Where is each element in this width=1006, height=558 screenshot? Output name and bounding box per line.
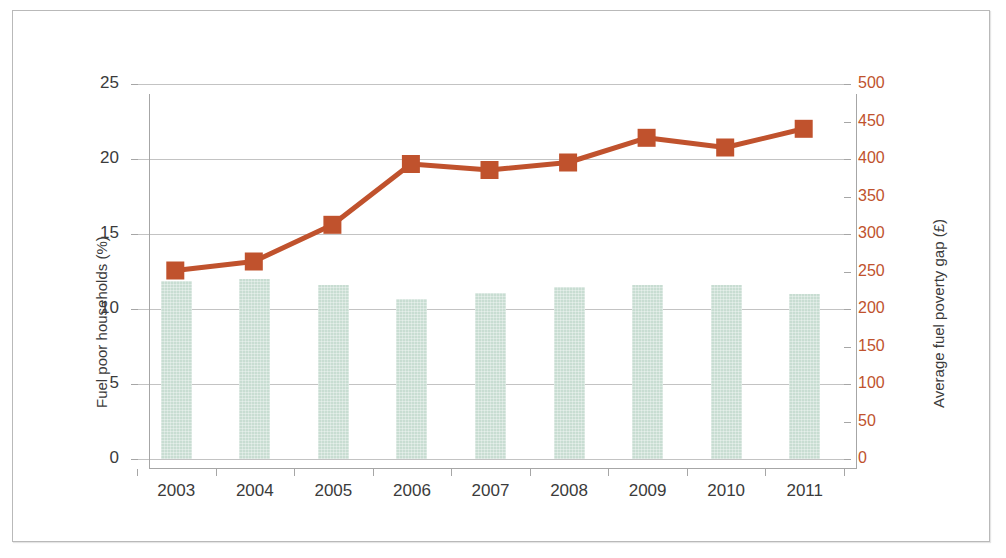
left-axis-tick [131, 84, 138, 85]
chart-frame: 0510152025 05010015020025030035040045050… [12, 10, 990, 542]
right-axis-tick [844, 347, 851, 348]
bar [396, 299, 427, 460]
right-axis-tick [844, 122, 851, 123]
right-axis-tick [844, 272, 851, 273]
gridline [137, 84, 844, 85]
right-axis-tick [844, 384, 851, 385]
right-axis-tick [844, 84, 851, 85]
left-axis-tick-label: 25 [79, 73, 119, 93]
x-axis-tick-label: 2004 [215, 481, 295, 501]
x-axis-tick-label: 2011 [765, 481, 845, 501]
x-axis-tick-label: 2009 [608, 481, 688, 501]
bar [632, 285, 663, 459]
right-axis-title: Average fuel poverty gap (£) [930, 219, 947, 408]
line-marker [716, 139, 734, 157]
x-axis-tick-label: 2008 [529, 481, 609, 501]
right-axis-tick-label: 400 [858, 149, 885, 167]
right-axis-tick-label: 0 [858, 449, 867, 467]
right-axis-tick-label: 500 [858, 74, 885, 92]
right-axis-tick-label: 200 [858, 299, 885, 317]
line-marker [323, 216, 341, 234]
left-axis-tick [131, 459, 138, 460]
x-axis-tick [530, 469, 531, 476]
x-axis-tick-label: 2010 [686, 481, 766, 501]
right-axis-tick-label: 250 [858, 262, 885, 280]
x-axis-tick [294, 469, 295, 476]
right-axis-tick [844, 459, 851, 460]
right-axis-tick-label: 50 [858, 412, 876, 430]
line-marker [402, 155, 420, 173]
x-axis-tick-label: 2003 [136, 481, 216, 501]
x-axis-tick [216, 469, 217, 476]
x-axis-tick [608, 469, 609, 476]
bar [789, 294, 820, 459]
bar [711, 285, 742, 459]
right-axis-tick [844, 197, 851, 198]
bar [475, 293, 506, 460]
left-axis-tick-label: 0 [79, 448, 119, 468]
right-axis-tick-label: 100 [858, 374, 885, 392]
line-marker [638, 129, 656, 147]
x-axis-tick [765, 469, 766, 476]
line-marker [559, 154, 577, 172]
line-marker [166, 262, 184, 280]
left-axis-tick [131, 309, 138, 310]
x-axis-tick [373, 469, 374, 476]
chart-page: 0510152025 05010015020025030035040045050… [0, 0, 1006, 558]
bar [318, 285, 349, 459]
x-axis-line [149, 468, 857, 469]
right-axis-tick-label: 300 [858, 224, 885, 242]
right-axis-tick [844, 234, 851, 235]
bar [239, 279, 270, 459]
gridline [137, 459, 844, 460]
bar [554, 287, 585, 460]
right-axis-line [856, 94, 857, 469]
x-axis-tick [137, 469, 138, 476]
gridline [137, 159, 844, 160]
line-markers [166, 120, 812, 280]
x-axis-tick [844, 469, 845, 476]
right-axis-tick [844, 422, 851, 423]
right-axis-tick-label: 450 [858, 112, 885, 130]
x-axis-tick-label: 2005 [293, 481, 373, 501]
x-axis-tick [687, 469, 688, 476]
line-marker [795, 120, 813, 138]
x-axis-tick-label: 2006 [372, 481, 452, 501]
line-marker [245, 253, 263, 271]
left-axis-tick [131, 159, 138, 160]
right-axis-tick [844, 309, 851, 310]
x-axis-tick [451, 469, 452, 476]
x-axis-tick-label: 2007 [451, 481, 531, 501]
gridline [137, 234, 844, 235]
line-marker [481, 161, 499, 179]
right-axis-tick [844, 159, 851, 160]
left-axis-tick [131, 234, 138, 235]
left-axis-title: Fuel poor households (%) [93, 236, 110, 408]
line-path [175, 129, 803, 271]
right-axis-tick-label: 350 [858, 187, 885, 205]
right-axis-tick-label: 150 [858, 337, 885, 355]
left-axis-tick-label: 20 [79, 148, 119, 168]
left-axis-line [149, 94, 150, 469]
bar [161, 281, 192, 460]
left-axis-tick [131, 384, 138, 385]
